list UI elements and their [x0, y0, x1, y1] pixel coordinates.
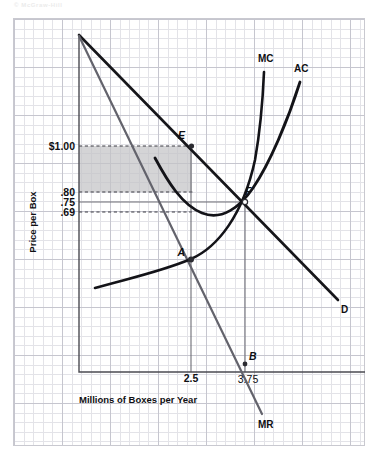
point-E: [189, 143, 194, 148]
chart-page: © McGraw-Hill E F A B MC: [0, 0, 376, 465]
point-label-E: E: [178, 129, 186, 141]
point-label-A: A: [176, 246, 185, 258]
x-tick-label-1: 2.5: [184, 372, 199, 384]
point-A: [188, 257, 194, 263]
y-axis-title: Price per Box: [27, 191, 38, 253]
point-label-B: B: [249, 350, 257, 362]
point-B: [243, 362, 248, 367]
x-axis-title: Millions of Boxes per Year: [79, 394, 197, 405]
curve-label-ac: AC: [294, 63, 308, 74]
axis-lines: [79, 35, 365, 372]
marginal-revenue-curve: [79, 36, 262, 414]
economics-chart: E F A B MC AC D MR $1.00 .80 .75 .69 2.5…: [0, 0, 376, 465]
x-tick-label-2: 3.75: [238, 373, 259, 385]
point-F: [242, 199, 247, 204]
curve-label-mr: MR: [258, 419, 274, 430]
curve-label-mc: MC: [258, 53, 274, 64]
y-tick-label-4: .69: [60, 206, 75, 218]
curve-label-d: D: [341, 304, 348, 315]
point-label-F: F: [245, 185, 252, 197]
y-tick-label-1: $1.00: [49, 140, 75, 152]
